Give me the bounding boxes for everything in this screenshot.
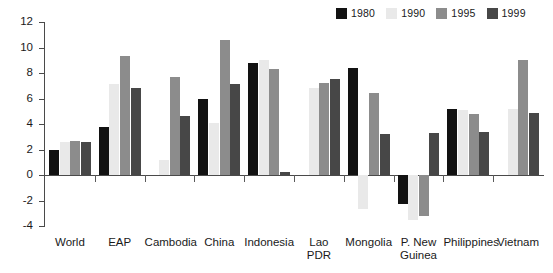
y-tick-label: 0 bbox=[0, 169, 33, 181]
bar bbox=[469, 114, 479, 175]
y-tick-label: 10 bbox=[0, 42, 33, 54]
bar bbox=[518, 60, 528, 175]
x-axis-label: P. New Guinea bbox=[394, 236, 444, 261]
bar bbox=[120, 56, 130, 175]
y-tick-mark bbox=[39, 201, 45, 202]
y-tick-mark bbox=[39, 99, 45, 100]
bar bbox=[408, 175, 418, 220]
x-axis-tick-mark bbox=[95, 175, 96, 182]
bar bbox=[209, 123, 219, 175]
bar bbox=[309, 88, 319, 175]
legend-item-1980: 1980 bbox=[336, 8, 375, 19]
x-axis-tick-mark bbox=[344, 175, 345, 182]
bar bbox=[330, 79, 340, 175]
x-axis-label: Philippines bbox=[443, 236, 493, 249]
x-axis-label: China bbox=[194, 236, 244, 249]
legend-item-label: 1980 bbox=[351, 8, 375, 19]
bar bbox=[319, 83, 329, 175]
bar bbox=[81, 142, 91, 175]
bar bbox=[458, 110, 468, 175]
x-axis-tick-mark bbox=[145, 175, 146, 182]
bar bbox=[248, 63, 258, 175]
legend-item-1999: 1999 bbox=[487, 8, 526, 19]
bar bbox=[220, 40, 230, 175]
x-axis-label: EAP bbox=[95, 236, 145, 249]
legend-swatch-icon bbox=[336, 8, 347, 19]
bar bbox=[529, 113, 539, 175]
bar bbox=[60, 142, 70, 175]
legend-item-label: 1995 bbox=[451, 8, 475, 19]
legend-item-1990: 1990 bbox=[386, 8, 425, 19]
legend-item-1995: 1995 bbox=[436, 8, 475, 19]
bar bbox=[508, 109, 518, 175]
bar bbox=[369, 93, 379, 175]
bar bbox=[429, 133, 439, 175]
bar bbox=[380, 134, 390, 175]
bar bbox=[49, 150, 59, 176]
legend-swatch-icon bbox=[487, 8, 498, 19]
y-tick-label: -4 bbox=[0, 220, 33, 232]
bar bbox=[180, 116, 190, 175]
y-tick-label: -2 bbox=[0, 195, 33, 207]
y-tick-mark bbox=[39, 226, 45, 227]
y-tick-mark bbox=[39, 48, 45, 49]
bar bbox=[447, 109, 457, 175]
bar bbox=[70, 141, 80, 175]
y-tick-mark bbox=[39, 150, 45, 151]
bar bbox=[269, 69, 279, 175]
legend-item-label: 1990 bbox=[401, 8, 425, 19]
y-tick-label: 4 bbox=[0, 118, 33, 130]
bar bbox=[131, 88, 141, 175]
legend-swatch-icon bbox=[386, 8, 397, 19]
chart-legend: 1980199019951999 bbox=[336, 8, 526, 19]
x-axis-tick-mark bbox=[294, 175, 295, 182]
bar bbox=[259, 60, 269, 175]
bar bbox=[280, 172, 290, 175]
y-tick-label: 8 bbox=[0, 67, 33, 79]
y-tick-label: 2 bbox=[0, 144, 33, 156]
y-tick-mark bbox=[39, 22, 45, 23]
bar bbox=[230, 84, 240, 175]
x-axis-tick-mark bbox=[244, 175, 245, 182]
x-axis-tick-mark bbox=[194, 175, 195, 182]
x-axis-label: Cambodia bbox=[145, 236, 195, 249]
bar bbox=[479, 132, 489, 175]
legend-item-label: 1999 bbox=[502, 8, 526, 19]
x-axis-label: Indonesia bbox=[244, 236, 294, 249]
y-tick-label: 6 bbox=[0, 93, 33, 105]
y-tick-mark bbox=[39, 175, 45, 176]
x-axis-label: Vietnam bbox=[493, 236, 543, 249]
bar bbox=[419, 175, 429, 216]
legend-swatch-icon bbox=[436, 8, 447, 19]
bar bbox=[109, 84, 119, 175]
bar bbox=[170, 77, 180, 175]
bar bbox=[358, 175, 368, 209]
bar bbox=[159, 160, 169, 175]
x-axis-tick-mark bbox=[493, 175, 494, 182]
x-axis-tick-mark bbox=[394, 175, 395, 182]
y-tick-mark bbox=[39, 73, 45, 74]
y-tick-label: 12 bbox=[0, 16, 33, 28]
bar bbox=[99, 127, 109, 175]
x-axis-tick-mark bbox=[443, 175, 444, 182]
bar bbox=[198, 99, 208, 176]
bar-chart: 1980199019951999 121086420-2-4 WorldEAPC… bbox=[0, 0, 553, 273]
x-axis-label: Lao PDR bbox=[294, 236, 344, 261]
y-tick-mark bbox=[39, 124, 45, 125]
x-axis-label: Mongolia bbox=[344, 236, 394, 249]
bar bbox=[398, 175, 408, 204]
x-axis-label: World bbox=[45, 236, 95, 249]
bar bbox=[348, 68, 358, 175]
